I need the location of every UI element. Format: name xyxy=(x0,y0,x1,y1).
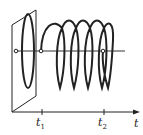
helix-diagram: t1 t2 t xyxy=(0,0,143,135)
point-start xyxy=(14,49,18,53)
arrow-head-icon xyxy=(133,110,140,115)
helix-spiral xyxy=(41,21,113,89)
axis-label-t: t xyxy=(134,118,138,129)
label-t2: t2 xyxy=(98,117,107,131)
label-t1: t1 xyxy=(36,117,45,131)
point-t1 xyxy=(39,49,43,53)
diagram-canvas xyxy=(0,0,143,135)
point-t2 xyxy=(101,49,105,53)
